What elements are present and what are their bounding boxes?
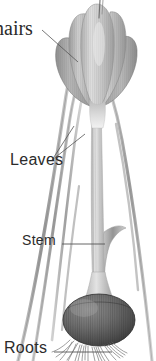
label-roots: Roots <box>4 340 47 356</box>
label-leaves: Leaves <box>10 152 63 168</box>
crocus-illustration <box>0 0 156 361</box>
label-stem: Stem <box>22 233 56 247</box>
botanical-diagram: hairs Leaves Stem Roots <box>0 0 156 361</box>
label-hairs: hairs <box>0 18 33 38</box>
